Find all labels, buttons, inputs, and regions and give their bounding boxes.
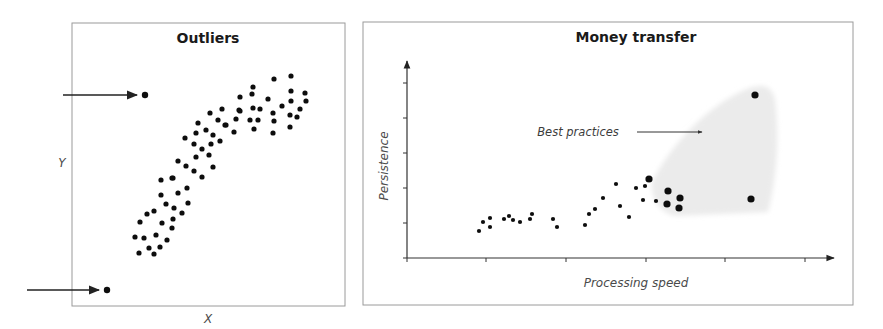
data-point: [287, 124, 292, 129]
outliers-panel: Outliers Y X: [27, 23, 345, 326]
data-point: [169, 175, 174, 180]
data-point: [175, 190, 180, 195]
data-point: [206, 152, 211, 157]
data-point: [210, 132, 215, 137]
data-point: [627, 215, 631, 219]
data-point: [251, 126, 256, 131]
data-point: [481, 220, 485, 224]
data-point: [159, 220, 164, 225]
data-point: [207, 110, 212, 115]
data-point: [184, 185, 189, 190]
data-point: [279, 103, 284, 108]
data-point: [250, 84, 255, 89]
data-point: [614, 182, 618, 186]
data-point: [518, 220, 522, 224]
data-point: [136, 250, 141, 255]
data-point: [185, 200, 190, 205]
data-point: [250, 105, 255, 110]
data-point: [191, 168, 196, 173]
data-point: [163, 201, 168, 206]
data-point: [217, 138, 222, 143]
data-point: [137, 219, 142, 224]
money-transfer-panel-frame: [363, 22, 853, 305]
data-point: [249, 91, 254, 96]
data-point: [175, 158, 180, 163]
data-point: [257, 106, 262, 111]
data-point: [193, 130, 198, 135]
data-point: [170, 216, 175, 221]
data-point: [231, 129, 236, 134]
outliers-x-label: X: [203, 312, 213, 326]
data-point: [208, 141, 213, 146]
best-practice-point: [645, 175, 652, 182]
best-practices-region: [652, 86, 777, 216]
best-practice-point: [675, 204, 682, 211]
data-point: [297, 106, 302, 111]
data-point: [502, 217, 506, 221]
outlier-points: [104, 92, 148, 293]
data-point: [151, 208, 156, 213]
data-point: [169, 225, 174, 230]
data-point: [555, 225, 559, 229]
data-point: [203, 127, 208, 132]
data-point: [171, 205, 176, 210]
data-point: [643, 184, 647, 188]
outliers-title: Outliers: [177, 30, 240, 46]
data-point: [141, 235, 146, 240]
data-point: [164, 237, 169, 242]
data-point: [144, 211, 149, 216]
data-point: [158, 177, 163, 182]
data-point: [634, 186, 638, 190]
data-point: [233, 116, 238, 121]
data-point: [179, 210, 184, 215]
outliers-data-points: [132, 73, 308, 256]
outliers-panel-frame: [72, 23, 345, 306]
data-point: [215, 117, 220, 122]
data-point: [153, 232, 158, 237]
data-point: [199, 146, 204, 151]
best-practice-point: [751, 91, 758, 98]
data-point: [271, 76, 276, 81]
data-point: [288, 73, 293, 78]
data-point: [288, 98, 293, 103]
best-practice-point: [747, 195, 754, 202]
money-transfer-panel: Money transfer Persistence Processing sp…: [363, 22, 853, 305]
processing-speed-axis-label: Processing speed: [584, 276, 689, 290]
best-practice-point: [676, 194, 683, 201]
money-transfer-title: Money transfer: [576, 29, 697, 45]
outliers-y-label: Y: [58, 156, 67, 170]
outlier-point-bottom: [104, 287, 110, 293]
data-point: [477, 229, 481, 233]
data-point: [199, 174, 204, 179]
data-point: [237, 94, 242, 99]
data-point: [193, 154, 198, 159]
data-point: [511, 218, 515, 222]
outlier-point-top: [142, 92, 148, 98]
data-point: [601, 196, 605, 200]
figure-canvas: Outliers Y X Money transfer: [0, 0, 883, 329]
data-point: [195, 120, 200, 125]
data-point: [210, 164, 215, 169]
data-point: [271, 118, 276, 123]
data-point: [488, 216, 492, 220]
data-point: [270, 110, 275, 115]
data-point: [294, 114, 299, 119]
data-point: [146, 245, 151, 250]
data-point: [593, 207, 597, 211]
data-point: [488, 225, 492, 229]
data-point: [654, 199, 658, 203]
data-point: [287, 112, 292, 117]
best-practice-point: [663, 200, 670, 207]
data-point: [303, 98, 308, 103]
data-point: [641, 198, 645, 202]
data-point: [158, 192, 163, 197]
data-point: [618, 204, 622, 208]
data-point: [270, 130, 275, 135]
data-point: [265, 96, 270, 101]
data-point: [583, 223, 587, 227]
data-point: [219, 106, 224, 111]
data-point: [182, 135, 187, 140]
data-point: [236, 107, 241, 112]
data-point: [157, 244, 162, 249]
data-point: [151, 251, 156, 256]
